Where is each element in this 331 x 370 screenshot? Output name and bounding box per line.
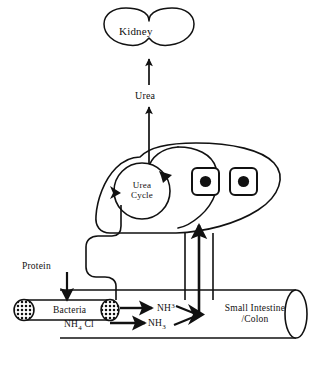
- intestine-label: Small Intestine /Colon: [215, 303, 295, 325]
- kidney-label: Kidney: [119, 25, 153, 37]
- nh4cl-subscript: 4: [78, 324, 82, 332]
- nh3-lower-subscript: 3: [162, 323, 166, 331]
- protein-label: Protein: [22, 261, 51, 271]
- nh4cl-prefix: NH: [64, 319, 78, 329]
- urea-cycle-label-line2: Cycle: [131, 190, 153, 200]
- nh3-upper-formula: NH: [157, 303, 171, 313]
- intestine-label-line2: /Colon: [241, 314, 268, 324]
- nh3-upper-subscript: 3: [171, 302, 175, 310]
- portal-inflow-left-path: [86, 205, 121, 300]
- diagram-canvas: Kidney Urea Urea Cycle Protein Bacteria …: [0, 0, 331, 370]
- arrowhead-ammonia-to-portal: [188, 304, 205, 325]
- intestine-label-line1: Small Intestine: [225, 303, 285, 313]
- hepatocyte-cell-right: [230, 168, 257, 195]
- cell-nucleus-right: [238, 176, 249, 187]
- ammonium-chloride-label: NH4 Cl: [64, 319, 94, 329]
- hepatocyte-cell-left: [192, 168, 219, 195]
- urea-label: Urea: [135, 90, 155, 101]
- ammonia-label-lower: NH3: [148, 318, 166, 328]
- nh4cl-suffix: Cl: [84, 319, 93, 329]
- bacteria-label: Bacteria: [53, 305, 86, 315]
- bacteria-end-right: [101, 300, 119, 321]
- cell-nucleus-left: [200, 176, 211, 187]
- bacteria-end-left: [14, 300, 34, 321]
- ammonia-label-upper: NH3: [157, 303, 175, 313]
- urea-cycle-label-line1: Urea: [133, 180, 151, 190]
- nh3-lower-formula: NH: [148, 318, 162, 328]
- urea-cycle-label: Urea Cycle: [119, 180, 165, 200]
